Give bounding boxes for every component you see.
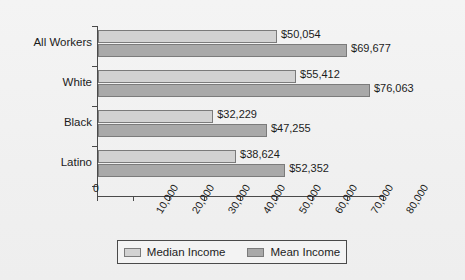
bar-mean-black[interactable] xyxy=(98,124,267,137)
legend-swatch-icon xyxy=(124,248,141,257)
bar-group-latino: $38,624 $52,352 xyxy=(98,146,384,186)
bar-mean-latino[interactable] xyxy=(98,164,285,177)
y-axis-tick xyxy=(92,106,97,107)
legend-swatch-icon xyxy=(247,248,264,257)
legend-label-mean: Mean Income xyxy=(270,246,340,258)
x-tick-label: 0 xyxy=(93,182,99,194)
bar-chart: All Workers White Black Latino $50,054 xyxy=(0,0,465,280)
bar-group-white: $55,412 $76,063 xyxy=(98,66,384,106)
bar-label-mean-black: $47,255 xyxy=(271,122,311,135)
bar-label-median-all-workers: $50,054 xyxy=(281,28,321,41)
y-axis-tick xyxy=(92,66,97,67)
bar-median-latino[interactable] xyxy=(98,150,236,163)
category-label-white: White xyxy=(63,76,92,88)
y-axis-tick xyxy=(92,26,97,27)
x-axis-tick xyxy=(97,196,98,201)
bar-mean-all-workers[interactable] xyxy=(98,44,347,57)
y-axis-tick xyxy=(92,146,97,147)
x-axis-tick xyxy=(133,196,134,201)
bar-mean-white[interactable] xyxy=(98,84,370,97)
legend-entry-median[interactable]: Median Income xyxy=(124,246,226,258)
plot-area: $50,054 $69,677 $55,412 $76,063 $32,229 … xyxy=(97,26,383,196)
bar-median-white[interactable] xyxy=(98,70,296,83)
bar-label-median-black: $32,229 xyxy=(217,108,257,121)
legend-label-median: Median Income xyxy=(147,246,226,258)
legend-entry-mean[interactable]: Mean Income xyxy=(247,246,340,258)
chart-legend: Median Income Mean Income xyxy=(117,240,347,264)
bar-label-median-white: $55,412 xyxy=(300,68,340,81)
category-label-all-workers: All Workers xyxy=(33,36,92,48)
bar-label-mean-latino: $52,352 xyxy=(289,162,329,175)
bar-group-all-workers: $50,054 $69,677 xyxy=(98,26,384,66)
bar-median-all-workers[interactable] xyxy=(98,30,277,43)
bar-group-black: $32,229 $47,255 xyxy=(98,106,384,146)
x-tick-label: 80,000 xyxy=(403,182,430,216)
bar-label-mean-white: $76,063 xyxy=(374,82,414,95)
bar-label-median-latino: $38,624 xyxy=(240,148,280,161)
category-label-latino: Latino xyxy=(61,156,92,168)
category-label-black: Black xyxy=(64,116,92,128)
bar-label-mean-all-workers: $69,677 xyxy=(351,42,391,55)
bar-median-black[interactable] xyxy=(98,110,213,123)
